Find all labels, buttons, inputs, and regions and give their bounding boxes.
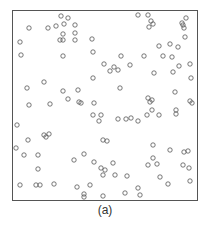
data-point xyxy=(73,38,77,42)
data-point xyxy=(170,55,174,59)
data-point xyxy=(123,191,127,195)
data-point xyxy=(101,194,105,198)
data-point xyxy=(14,146,18,150)
data-point xyxy=(61,54,65,58)
data-point xyxy=(54,24,58,28)
data-point xyxy=(22,153,26,157)
data-point xyxy=(97,119,101,123)
data-point xyxy=(155,162,159,166)
data-point xyxy=(182,26,186,30)
data-point xyxy=(92,160,96,164)
data-point xyxy=(157,44,161,48)
data-point xyxy=(42,80,46,84)
data-point xyxy=(99,113,103,117)
data-point xyxy=(47,132,51,136)
data-point xyxy=(136,13,140,17)
data-point xyxy=(188,179,192,183)
data-point xyxy=(112,65,116,69)
data-point xyxy=(91,50,95,54)
data-point xyxy=(147,25,151,29)
data-point xyxy=(113,173,117,177)
scatter-figure: (a) xyxy=(0,0,210,227)
figure-caption: (a) xyxy=(0,203,210,217)
data-point xyxy=(124,117,128,121)
data-point xyxy=(166,182,170,186)
data-point xyxy=(90,37,94,41)
data-point xyxy=(187,166,191,170)
data-point xyxy=(146,163,150,167)
data-point xyxy=(76,88,80,92)
data-point xyxy=(27,26,31,30)
data-point xyxy=(151,143,155,147)
data-point xyxy=(136,119,140,123)
data-point xyxy=(48,102,52,106)
data-point xyxy=(105,139,109,143)
data-point xyxy=(73,23,77,27)
data-point xyxy=(27,103,31,107)
data-point xyxy=(145,113,149,117)
data-point xyxy=(173,90,177,94)
data-point xyxy=(92,101,96,105)
data-points xyxy=(14,13,194,199)
data-point xyxy=(136,186,140,190)
data-point xyxy=(66,97,70,101)
data-point xyxy=(186,149,190,153)
data-point xyxy=(82,195,86,199)
data-point xyxy=(82,152,86,156)
data-point xyxy=(15,123,19,127)
data-point xyxy=(88,183,92,187)
data-point xyxy=(181,163,185,167)
data-point xyxy=(188,62,192,66)
data-point xyxy=(25,86,29,90)
data-point xyxy=(183,35,187,39)
data-point xyxy=(116,68,120,72)
data-point xyxy=(161,54,165,58)
data-point xyxy=(36,167,40,171)
data-point xyxy=(138,193,142,197)
data-point xyxy=(19,53,23,57)
data-point xyxy=(168,148,172,152)
data-point xyxy=(189,76,193,80)
data-point xyxy=(142,54,146,58)
data-point xyxy=(111,161,115,165)
data-point xyxy=(146,13,150,17)
data-point xyxy=(91,113,95,117)
data-point xyxy=(119,54,123,58)
data-point xyxy=(73,31,77,35)
data-point xyxy=(168,42,172,46)
data-point xyxy=(177,64,181,68)
data-point xyxy=(61,89,65,93)
data-point xyxy=(150,108,154,112)
data-point xyxy=(62,22,66,26)
data-point xyxy=(46,26,50,30)
data-point xyxy=(129,116,133,120)
data-point xyxy=(59,14,63,18)
data-point xyxy=(103,168,107,172)
data-point xyxy=(18,40,22,44)
data-point xyxy=(125,174,129,178)
data-point xyxy=(158,175,162,179)
data-point xyxy=(152,71,156,75)
data-point xyxy=(26,138,30,142)
data-point xyxy=(61,32,65,36)
data-point xyxy=(91,76,95,80)
data-point xyxy=(116,117,120,121)
data-point xyxy=(128,63,132,67)
data-point xyxy=(176,45,180,49)
data-point xyxy=(102,62,106,66)
data-point xyxy=(157,113,161,117)
data-point xyxy=(184,16,188,20)
data-point xyxy=(151,156,155,160)
data-point xyxy=(101,173,105,177)
data-point xyxy=(61,38,65,42)
data-point xyxy=(108,69,112,73)
data-point xyxy=(66,16,70,20)
scatter-plot xyxy=(0,0,210,227)
data-point xyxy=(75,185,79,189)
data-point xyxy=(36,153,40,157)
data-point xyxy=(171,70,175,74)
data-point xyxy=(72,158,76,162)
data-point xyxy=(118,86,122,90)
data-point xyxy=(52,182,56,186)
data-point xyxy=(18,183,22,187)
